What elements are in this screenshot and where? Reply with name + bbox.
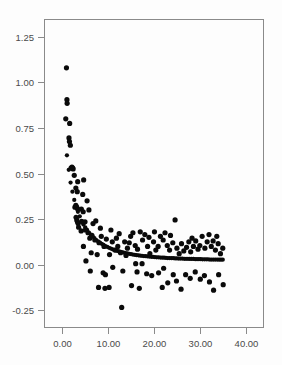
- data-point: [96, 240, 101, 245]
- data-point: [165, 243, 170, 248]
- data-point: [99, 234, 104, 239]
- data-point: [81, 244, 86, 249]
- data-point: [119, 305, 124, 310]
- data-point: [65, 153, 69, 157]
- data-point: [160, 285, 165, 290]
- data-point: [90, 221, 95, 226]
- data-point: [188, 276, 193, 281]
- data-point: [104, 237, 109, 242]
- data-point: [218, 251, 223, 256]
- data-point: [129, 283, 134, 288]
- data-point: [120, 268, 125, 273]
- data-point: [89, 250, 94, 255]
- data-point: [144, 271, 149, 276]
- x-tick-label: 20.00: [143, 338, 167, 349]
- data-point: [68, 143, 73, 148]
- y-tick-label: 0.25: [16, 214, 35, 225]
- data-point: [145, 244, 150, 249]
- scatter-plot: 0.0010.0020.0030.0040.00 -0.250.000.250.…: [0, 0, 282, 365]
- x-tick-label: 10.00: [97, 338, 121, 349]
- data-point: [134, 269, 139, 274]
- data-point: [72, 198, 76, 202]
- data-point: [167, 247, 172, 252]
- data-point: [133, 261, 138, 266]
- data-point: [82, 219, 87, 224]
- data-point: [125, 246, 130, 251]
- data-point: [214, 234, 219, 239]
- data-point: [107, 252, 112, 257]
- data-point: [86, 207, 91, 212]
- data-point: [127, 240, 132, 245]
- data-point: [221, 258, 225, 262]
- data-point: [84, 198, 89, 203]
- data-point: [221, 282, 226, 287]
- data-point: [71, 166, 76, 171]
- data-point: [200, 234, 205, 239]
- data-point: [88, 268, 93, 273]
- data-point: [205, 239, 210, 244]
- data-point: [81, 177, 86, 182]
- data-point: [202, 273, 207, 278]
- data-point: [137, 286, 142, 291]
- data-point: [161, 266, 166, 271]
- x-tick-label: 30.00: [189, 338, 213, 349]
- data-point: [67, 121, 72, 126]
- data-point: [165, 280, 170, 285]
- data-point: [149, 273, 154, 278]
- data-point: [123, 253, 128, 258]
- data-point: [188, 249, 193, 254]
- data-point: [198, 277, 203, 282]
- data-point: [179, 241, 184, 246]
- data-point: [183, 272, 188, 277]
- data-point: [63, 116, 68, 121]
- data-point: [178, 287, 183, 292]
- data-point: [152, 229, 157, 234]
- data-point: [140, 237, 145, 242]
- data-point: [98, 226, 103, 231]
- data-point: [96, 285, 101, 290]
- data-point: [122, 239, 127, 244]
- data-point: [70, 190, 74, 194]
- data-point: [174, 246, 179, 251]
- data-point: [213, 247, 218, 252]
- data-point: [189, 236, 194, 241]
- data-point: [118, 250, 123, 255]
- data-point: [110, 265, 115, 270]
- y-tick-label: 1.00: [16, 77, 35, 88]
- data-point: [138, 229, 143, 234]
- data-point: [75, 179, 80, 184]
- data-point: [81, 209, 86, 214]
- data-point: [65, 101, 70, 106]
- data-point: [156, 244, 161, 249]
- data-point: [191, 244, 196, 249]
- data-point: [168, 233, 173, 238]
- data-point: [135, 247, 140, 252]
- data-point: [216, 241, 221, 246]
- data-point: [117, 231, 122, 236]
- y-tick-label: 1.25: [16, 32, 35, 43]
- data-point: [146, 235, 151, 240]
- data-point: [101, 244, 106, 249]
- y-tick-label: 0.50: [16, 169, 35, 180]
- data-point: [103, 272, 108, 277]
- data-point: [193, 269, 198, 274]
- chart-figure: 0.0010.0020.0030.0040.00 -0.250.000.250.…: [0, 0, 282, 365]
- data-point: [130, 230, 135, 235]
- data-point: [161, 237, 166, 242]
- data-point: [75, 189, 80, 194]
- data-point: [216, 272, 221, 277]
- data-point: [106, 285, 111, 290]
- data-point: [68, 180, 72, 184]
- data-point: [139, 261, 144, 266]
- data-point: [220, 246, 225, 251]
- data-point: [211, 288, 216, 293]
- y-tick-label: 0.00: [16, 260, 35, 271]
- x-tick-label: 0.00: [53, 338, 72, 349]
- data-point: [211, 238, 216, 243]
- data-point: [207, 279, 212, 284]
- data-point: [172, 217, 177, 222]
- data-point: [108, 227, 113, 232]
- data-point: [147, 251, 152, 256]
- data-point: [95, 252, 100, 257]
- y-tick-label: -0.25: [12, 305, 34, 316]
